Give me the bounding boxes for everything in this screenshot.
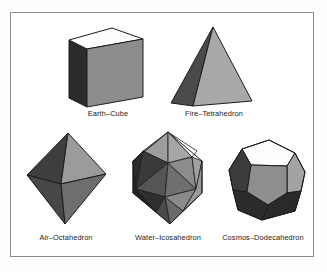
dodecahedron-face-top [242, 140, 295, 166]
cube-face-front [87, 39, 143, 107]
solid-item-dodecahedron: Cosmos–Dodecahedron [207, 127, 319, 253]
solid-label-cube: Earth–Cube [53, 109, 163, 118]
solid-label-tetrahedron: Fire–Tetrahedron [153, 109, 275, 118]
solid-item-cube: Earth–Cube [53, 21, 163, 125]
solid-label-dodecahedron: Cosmos–Dodecahedron [207, 233, 319, 242]
cube-illustration [53, 21, 163, 111]
cube-face-left [69, 40, 87, 107]
dodecahedron-illustration [207, 127, 319, 231]
tetrahedron-illustration [153, 21, 275, 111]
solid-label-octahedron: Air–Octahedron [13, 233, 119, 242]
solid-item-octahedron: Air–Octahedron [13, 127, 119, 253]
platonic-solids-figure: Earth–Cube Fire–Tetrahedron [0, 0, 327, 272]
solid-item-tetrahedron: Fire–Tetrahedron [153, 21, 275, 125]
octahedron-illustration [13, 127, 119, 231]
figure-frame-border: Earth–Cube Fire–Tetrahedron [10, 12, 314, 257]
